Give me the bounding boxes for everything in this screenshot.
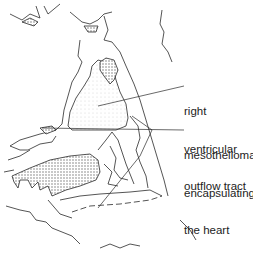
anatomical-diagram: right ventricular outflow tract mesothel…: [0, 0, 253, 269]
label-line: the heart: [184, 224, 253, 237]
label-line: mesothelioma: [184, 149, 253, 162]
label-line: encapsulating: [184, 187, 253, 200]
label-mesothelioma: mesothelioma encapsulating the heart: [184, 124, 253, 262]
label-line: right: [184, 105, 246, 118]
